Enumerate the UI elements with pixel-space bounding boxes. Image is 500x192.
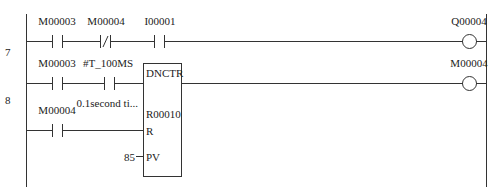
label-i00001-r7: I00001 <box>144 15 175 27</box>
ladder-diagram <box>0 0 500 192</box>
rung-8-wiring <box>26 84 486 157</box>
contact-m00003-r7[interactable] <box>53 35 63 48</box>
dnctr-pv-pin: PV <box>146 151 160 163</box>
contact-t100ms-r8[interactable] <box>105 77 115 90</box>
dnctr-reset-pin: R <box>146 125 153 137</box>
label-m00003-r8: M00003 <box>38 57 75 69</box>
contact-m00003-r8[interactable] <box>53 77 63 90</box>
rung-number-7: 7 <box>5 46 11 58</box>
rung-number-8: 8 <box>5 94 11 106</box>
label-m00004-r8: M00004 <box>38 104 75 116</box>
label-m00003-r7: M00003 <box>38 15 75 27</box>
contact-nc-m00004-r7[interactable] <box>101 35 111 48</box>
coil-q00004[interactable] <box>463 35 477 49</box>
comment-t100ms: 0.1second ti... <box>77 97 138 109</box>
label-m00004-coil: M00004 <box>450 57 487 69</box>
dnctr-preset-value: 85 <box>124 151 135 163</box>
contact-i00001-r7[interactable] <box>155 35 165 48</box>
dnctr-title: DNCTR <box>146 67 183 79</box>
label-t100ms: #T_100MS <box>83 57 133 69</box>
label-q00004: Q00004 <box>451 15 486 27</box>
contact-m00004-r8[interactable] <box>53 124 63 137</box>
label-m00004-r7: M00004 <box>87 15 124 27</box>
dnctr-operand: R00010 <box>146 108 181 120</box>
coil-m00004[interactable] <box>463 77 477 91</box>
